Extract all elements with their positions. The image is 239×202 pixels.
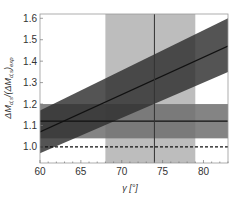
- y-axis-label: ΔMd,s/(ΔMd,s)exp: [3, 57, 14, 120]
- chart: 6065707580 1.01.11.21.31.41.51.6 γ [°] Δ…: [0, 0, 239, 202]
- y-tick-label: 1.2: [23, 99, 37, 110]
- x-tick-label: 60: [34, 166, 46, 177]
- x-tick-label: 75: [157, 166, 169, 177]
- y-tick-label: 1.3: [23, 77, 37, 88]
- y-tick-label: 1.1: [23, 120, 37, 131]
- y-tick-label: 1.0: [23, 141, 37, 152]
- x-tick-label: 65: [75, 166, 87, 177]
- x-tick-label: 80: [198, 166, 210, 177]
- x-axis-label: γ [°]: [122, 183, 138, 193]
- plot-area: [40, 14, 228, 163]
- y-tick-label: 1.5: [23, 34, 37, 45]
- y-tick-label: 1.6: [23, 13, 37, 24]
- x-tick-label: 70: [116, 166, 128, 177]
- y-tick-label: 1.4: [23, 56, 37, 67]
